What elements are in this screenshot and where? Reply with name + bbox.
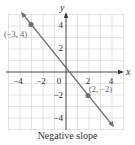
svg-text:2: 2 [59,43,64,53]
svg-text:−4: −4 [13,76,23,86]
chart-caption: Negative slope [0,130,135,141]
svg-text:−2: −2 [36,76,46,86]
point-neg3-4 [28,22,33,27]
y-axis-arrow-icon [64,12,68,18]
y-axis-label: y [59,2,65,13]
svg-text:(2, −2): (2, −2) [89,84,112,94]
svg-text:4: 4 [59,20,64,30]
coordinate-plane: x y −4 −2 0 2 4 4 2 −2 −4 (−3, 4) (2, −2… [0,0,135,145]
svg-text:0: 0 [57,76,62,86]
svg-text:−2: −2 [53,90,63,100]
svg-text:(−3, 4): (−3, 4) [4,29,27,39]
svg-text:−4: −4 [53,113,63,123]
y-tick-labels: 4 2 −2 −4 [53,20,63,123]
x-axis-label: x [125,66,131,77]
negative-slope-line [21,12,114,127]
